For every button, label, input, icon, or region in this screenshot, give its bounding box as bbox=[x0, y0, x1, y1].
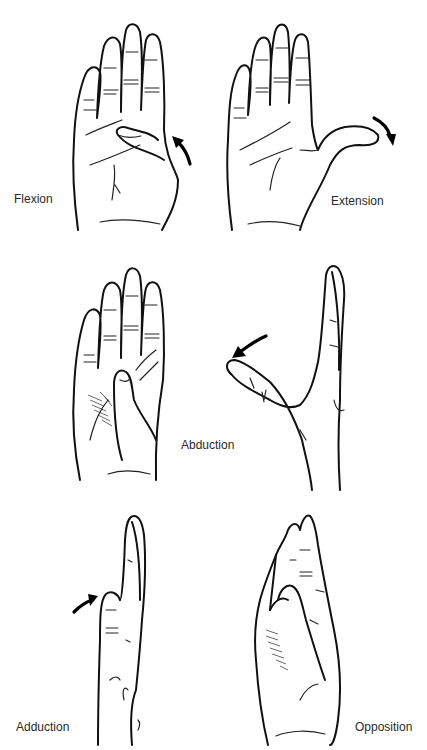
label-flexion: Flexion bbox=[14, 192, 53, 206]
adduction-arrow bbox=[74, 594, 98, 612]
abduction-arrow bbox=[232, 336, 266, 358]
label-adduction: Adduction bbox=[16, 720, 69, 734]
flexion-arrow bbox=[172, 136, 190, 164]
flexion-hand-illustration bbox=[73, 24, 178, 230]
thumb-movements-diagram: Flexion Extension Abduction bbox=[0, 0, 427, 750]
adduction-hand-illustration bbox=[98, 516, 145, 745]
opposition-hand-illustration bbox=[255, 516, 340, 745]
label-abduction: Abduction bbox=[181, 438, 234, 452]
label-opposition: Opposition bbox=[355, 720, 412, 734]
abduction-palm-hand-illustration bbox=[73, 268, 164, 480]
abduction-hand-illustration bbox=[227, 266, 344, 490]
label-extension: Extension bbox=[331, 194, 384, 208]
